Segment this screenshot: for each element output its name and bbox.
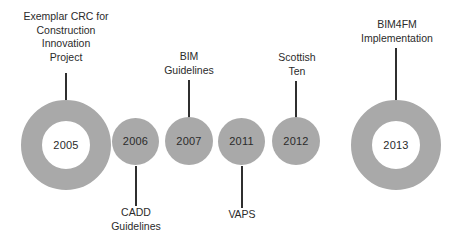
timeline-node-2007[interactable]: 2007 xyxy=(165,117,213,165)
connector-line-2011 xyxy=(241,166,243,208)
timeline-node-year-2011: 2011 xyxy=(229,136,253,147)
timeline-node-year-2005: 2005 xyxy=(53,140,78,151)
timeline-node-year-2013: 2013 xyxy=(383,140,408,151)
timeline-node-year-2006: 2006 xyxy=(123,136,148,147)
connector-line-2013 xyxy=(395,48,397,101)
timeline-node-2005[interactable]: 2005 xyxy=(21,100,111,190)
event-label-2011: VAPS xyxy=(204,208,280,222)
timeline-node-2012[interactable]: 2012 xyxy=(272,117,320,165)
event-label-2006: CADD Guidelines xyxy=(96,206,176,233)
connector-line-2005 xyxy=(65,73,67,101)
connector-line-2007 xyxy=(188,80,190,118)
timeline-node-2013[interactable]: 2013 xyxy=(351,100,441,190)
event-label-2005: Exemplar CRC for Construction Innovation… xyxy=(6,10,126,64)
timeline-node-2011[interactable]: 2011 xyxy=(218,118,265,165)
timeline-diagram: Exemplar CRC for Construction Innovation… xyxy=(0,0,452,244)
timeline-node-year-2007: 2007 xyxy=(176,136,201,147)
event-label-2012: Scottish Ten xyxy=(258,51,336,78)
timeline-node-year-2012: 2012 xyxy=(283,136,308,147)
connector-line-2006 xyxy=(135,166,137,206)
event-label-2007: BIM Guidelines xyxy=(149,50,229,77)
event-label-2013: BIM4FM Implementation xyxy=(341,18,452,45)
timeline-node-2006[interactable]: 2006 xyxy=(112,118,159,165)
connector-line-2012 xyxy=(295,81,297,118)
